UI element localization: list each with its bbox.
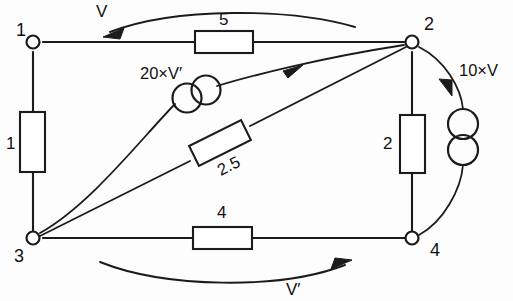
resistor-bottom-body bbox=[193, 227, 252, 249]
node-3-label: 3 bbox=[14, 246, 24, 266]
resistor-top-body bbox=[195, 31, 253, 53]
node-2-label: 2 bbox=[424, 14, 434, 34]
voltage-v-prime-arc bbox=[100, 262, 345, 283]
node-1-label: 1 bbox=[16, 20, 26, 40]
wire-node3-to-diagonal-resistor bbox=[40, 161, 190, 236]
node-1-terminal bbox=[27, 36, 40, 49]
wire-right-source-to-node4 bbox=[419, 165, 463, 235]
resistor-bottom-label: 4 bbox=[217, 203, 226, 222]
node-4-label: 4 bbox=[430, 240, 440, 260]
voltage-v-label: V bbox=[96, 2, 108, 21]
wire-node2-to-right-source bbox=[419, 47, 463, 109]
voltage-v-arrowhead bbox=[103, 28, 124, 39]
resistor-right-body bbox=[400, 115, 425, 173]
circuit-diagram-canvas: 1 2 3 4 1 5 2.5 2 4 20×V′ 10×V V V′ bbox=[0, 0, 513, 301]
source-left-circle-b bbox=[192, 76, 221, 105]
resistor-left-label: 1 bbox=[6, 134, 15, 153]
resistor-right-label: 2 bbox=[383, 134, 392, 153]
node-4-terminal bbox=[406, 232, 419, 245]
voltage-v-prime-label: V′ bbox=[286, 280, 301, 299]
source-dependent-right-label: 10×V bbox=[459, 61, 498, 79]
source-dependent-right-symbol bbox=[448, 109, 478, 165]
source-left-circle-a bbox=[173, 84, 202, 113]
right-source-branch-arrowhead bbox=[439, 79, 452, 96]
voltage-v-arc bbox=[110, 13, 355, 32]
node-3-terminal bbox=[27, 232, 40, 245]
resistor-left-body bbox=[20, 112, 45, 172]
circuit-diagram-svg: 1 2 3 4 1 5 2.5 2 4 20×V′ 10×V V V′ bbox=[0, 0, 513, 301]
source-dependent-left-label: 20×V′ bbox=[140, 64, 182, 82]
node-2-terminal bbox=[406, 36, 419, 49]
resistor-top-label: 5 bbox=[219, 10, 228, 29]
wire-node3-to-left-source bbox=[40, 104, 175, 233]
voltage-v-prime-arrowhead bbox=[331, 258, 352, 269]
